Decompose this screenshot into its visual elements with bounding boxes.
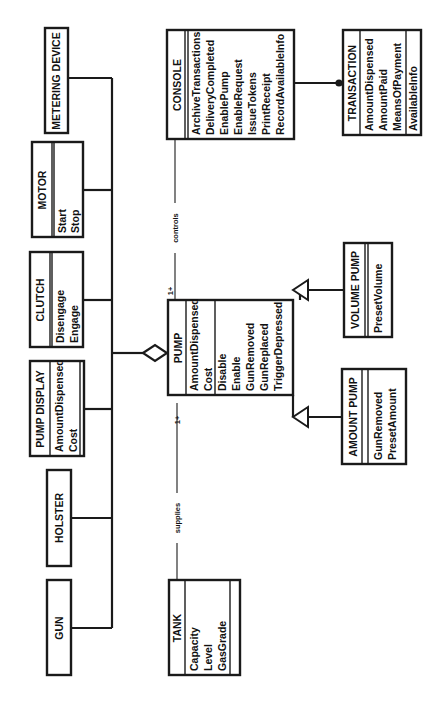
class-tank[interactable]: TANK Capacity Level GasGrade: [169, 580, 240, 675]
class-title: CONSOLE: [171, 59, 183, 111]
attribute: MeansOfPayment: [391, 42, 403, 131]
class-pump[interactable]: PUMP AmountDispensed Cost Disable Enable…: [168, 298, 293, 395]
operation: AvailableInfo: [407, 66, 419, 131]
class-metering-device[interactable]: METERING DEVICE: [45, 28, 68, 133]
class-transaction[interactable]: TRANSACTION AmountDispensed AmountPaid M…: [343, 30, 421, 135]
class-title: GUN: [53, 616, 65, 639]
class-title: TANK: [171, 613, 183, 642]
class-title: MOTOR: [36, 170, 48, 209]
operation: GunRemoved: [244, 323, 256, 391]
attribute: AmountPaid: [377, 69, 389, 131]
multiplicity-label: 1+: [173, 415, 182, 424]
attribute: AmountDispensed: [53, 359, 65, 452]
class-volume-pump[interactable]: VOLUME PUMP PresetVolume: [344, 243, 392, 337]
class-title: TRANSACTION: [346, 45, 358, 121]
association-supplies: supplies 1+: [173, 403, 182, 580]
attribute: AmountDispensed: [363, 38, 375, 131]
attribute: Cost: [67, 428, 79, 452]
attribute: Capacity: [188, 627, 200, 671]
operation: PresetAmount: [386, 388, 398, 460]
class-title: HOLSTER: [53, 493, 65, 544]
operation: GunRemoved: [372, 392, 384, 460]
aggregation-diamond-icon: [143, 345, 167, 361]
operation: TriggerDepressed: [272, 302, 284, 391]
operation: DeliveryCompleted: [204, 40, 216, 135]
class-holster[interactable]: HOLSTER: [47, 470, 71, 566]
attribute: AmountDispensed: [188, 298, 200, 391]
class-motor[interactable]: MOTOR Start Stop: [32, 142, 83, 237]
operation: IssueTokens: [246, 72, 258, 135]
class-console[interactable]: CONSOLE ArchiveTransactions DeliveryComp…: [167, 30, 294, 139]
operation: EnablePump: [218, 71, 230, 135]
multiplicity-label: 1+: [166, 286, 175, 295]
association-controls: controls 1+: [166, 139, 180, 308]
class-clutch[interactable]: CLUTCH Disengage Engage: [30, 252, 83, 347]
uml-diagram: METERING DEVICE MOTOR Start Stop CLUTCH …: [0, 0, 436, 703]
attribute: GasGrade: [216, 621, 228, 671]
operation: Enable: [230, 356, 242, 391]
many-dot-icon: [335, 79, 342, 86]
class-title: VOLUME PUMP: [349, 251, 361, 329]
class-title: AMOUNT PUMP: [347, 377, 359, 456]
attribute: Level: [202, 644, 214, 671]
diagram-rotated-group: METERING DEVICE MOTOR Start Stop CLUTCH …: [30, 28, 421, 675]
operation: GunReplaced: [258, 323, 270, 391]
operation: PresetVolume: [372, 264, 384, 333]
class-title: PUMP DISPLAY: [34, 370, 46, 448]
association-label: controls: [171, 213, 180, 243]
association-label: supplies: [173, 503, 182, 533]
class-title: PUMP: [172, 333, 184, 363]
attribute: Cost: [202, 367, 214, 391]
operation: Start: [56, 209, 68, 233]
operation: Engage: [68, 305, 80, 343]
association-console-transaction: [294, 79, 343, 86]
class-title: METERING DEVICE: [50, 32, 62, 129]
class-pump-display[interactable]: PUMP DISPLAY AmountDispensed Cost: [30, 359, 84, 456]
operation: EnableRequest: [232, 59, 244, 135]
class-gun[interactable]: GUN: [47, 580, 71, 675]
inheritance-triangle-icon: [293, 407, 308, 427]
class-title: CLUTCH: [34, 278, 46, 321]
operation: Disable: [216, 353, 228, 391]
class-amount-pump[interactable]: AMOUNT PUMP GunRemoved PresetAmount: [342, 369, 406, 464]
operation: ArchiveTransactions: [190, 32, 202, 135]
operation: PrintReceipt: [260, 73, 272, 135]
operation: Stop: [69, 210, 81, 233]
operation: Disengage: [54, 290, 66, 343]
operation: RecordAvailableInfo: [274, 34, 286, 135]
